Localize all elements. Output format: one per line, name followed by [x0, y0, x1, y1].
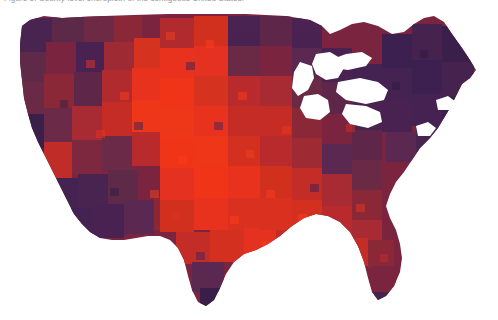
map-svg	[0, 4, 498, 320]
figure-caption-text: Figure 1. County-level choropleth of the…	[4, 0, 244, 3]
county-tiles-group	[0, 4, 498, 320]
choropleth-map	[0, 4, 498, 320]
screenshot-root: Figure 1. County-level choropleth of the…	[0, 0, 498, 320]
